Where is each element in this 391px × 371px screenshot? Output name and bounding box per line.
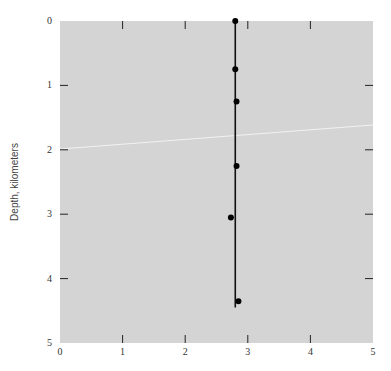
x-tick-label: 5 [371, 346, 376, 357]
y-axis-title: Depth, kilometers [9, 143, 20, 221]
y-tick-label: 4 [47, 273, 52, 284]
x-tick-label: 3 [245, 346, 250, 357]
data-point [228, 214, 234, 220]
y-tick-label: 5 [47, 337, 52, 348]
data-point [234, 163, 240, 169]
data-point [232, 18, 238, 24]
x-tick-label: 1 [120, 346, 125, 357]
y-tick-label: 3 [47, 208, 52, 219]
data-point [232, 66, 238, 72]
x-tick-label: 4 [308, 346, 313, 357]
y-tick-label: 1 [47, 79, 52, 90]
y-tick-label: 2 [47, 144, 52, 155]
plot-area [60, 21, 373, 343]
y-tick-label: 0 [47, 15, 52, 26]
data-point [235, 298, 241, 304]
x-tick-label: 2 [183, 346, 188, 357]
data-point [234, 99, 240, 105]
depth-chart: 012345012345 Depth, kilometers [0, 0, 391, 371]
x-tick-label: 0 [58, 346, 63, 357]
